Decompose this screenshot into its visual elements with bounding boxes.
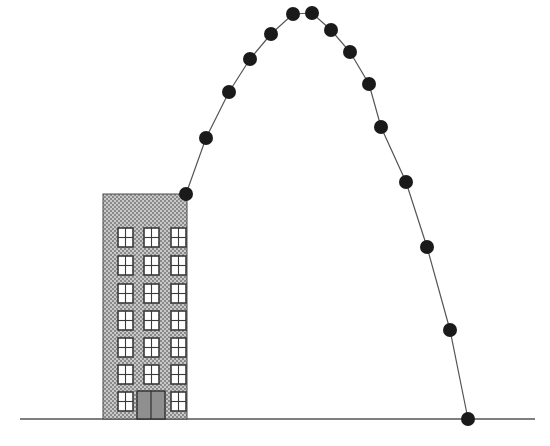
building — [103, 194, 187, 419]
figure-canvas — [0, 0, 550, 446]
trajectory-balls — [179, 6, 475, 426]
projectile-ball — [286, 7, 300, 21]
projectile-motion-figure — [0, 0, 550, 446]
trajectory-path — [186, 13, 468, 419]
projectile-ball — [443, 323, 457, 337]
projectile-ball — [374, 120, 388, 134]
projectile-ball — [461, 412, 475, 426]
projectile-path-line — [186, 13, 468, 419]
projectile-ball — [179, 187, 193, 201]
projectile-ball — [343, 45, 357, 59]
projectile-ball — [399, 175, 413, 189]
projectile-ball — [243, 52, 257, 66]
projectile-ball — [362, 77, 376, 91]
projectile-ball — [264, 27, 278, 41]
projectile-ball — [324, 23, 338, 37]
projectile-ball — [420, 240, 434, 254]
projectile-ball — [222, 85, 236, 99]
projectile-ball — [305, 6, 319, 20]
projectile-ball — [199, 131, 213, 145]
